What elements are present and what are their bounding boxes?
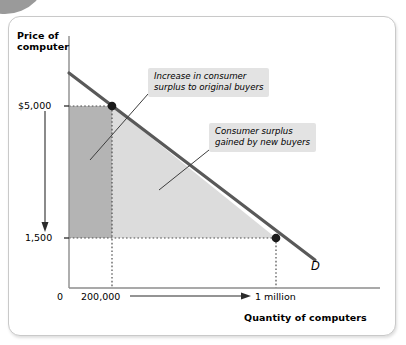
x-axis-title: Quantity of computers [244,312,394,323]
x-tick-label-zero: 0 [57,291,63,302]
price-drop-arrow-head [42,222,49,232]
demand-curve-label: D [311,259,320,273]
x-tick-label-200000: 200,000 [81,291,120,302]
y-axis-title: Price of computer [17,30,69,52]
x-tick-label-1-million: 1 million [255,291,296,302]
callout-new-buyers: Consumer surplus gained by new buyers [209,123,316,152]
point-original-equilibrium [108,102,117,111]
point-new-equilibrium [272,234,281,243]
callout-original-buyers: Increase in consumer surplus to original… [148,68,269,97]
region-original-buyers-surplus [69,106,112,238]
figure-container: Price of computer Quantity of computers … [0,0,406,345]
y-tick-label-price-high: $5,000 [18,100,51,111]
y-tick-label-price-low: 1,500 [25,232,52,243]
quantity-increase-arrow-head [241,293,251,300]
